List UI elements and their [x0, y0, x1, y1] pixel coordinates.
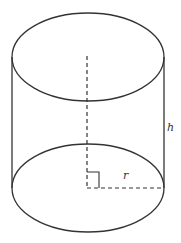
radius-label: r [123, 170, 128, 181]
top-ellipse [12, 13, 164, 101]
cylinder-diagram [0, 0, 181, 243]
height-label: h [167, 122, 174, 133]
right-angle-marker [87, 172, 99, 188]
